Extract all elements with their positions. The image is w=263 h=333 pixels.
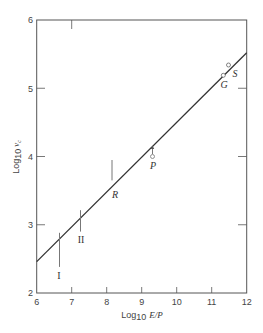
x-tick-9: 9	[139, 297, 144, 307]
y-tick-5: 5	[28, 84, 33, 94]
y-tick-4: 4	[28, 152, 33, 162]
point-G	[221, 73, 225, 77]
label-S: S	[233, 68, 238, 79]
point-P	[151, 155, 155, 159]
label-I: I	[57, 270, 60, 281]
point-S	[227, 63, 231, 67]
y-tick-6: 6	[28, 15, 33, 25]
x-tick-7: 7	[69, 297, 74, 307]
x-tick-6: 6	[34, 297, 39, 307]
label-G: G	[220, 79, 227, 90]
y-tick-labels: 2 3 4 5 6	[28, 15, 33, 298]
x-axis-label: Log10E/P	[121, 310, 163, 322]
fit-line	[37, 53, 247, 262]
y-tick-3: 3	[28, 220, 33, 230]
x-tick-12: 12	[242, 297, 252, 307]
x-tick-labels: 6 7 8 9 10 11 12	[34, 297, 252, 307]
y-axis-label: Log10vc	[11, 140, 23, 174]
x-tick-11: 11	[207, 297, 216, 307]
chart: 6 7 8 9 10 11 12 2 3 4 5 6 Log10E/P Log1…	[0, 0, 263, 333]
label-II: II	[78, 234, 85, 245]
y-tick-2: 2	[28, 288, 33, 298]
label-P: P	[149, 160, 156, 171]
x-tick-10: 10	[172, 297, 182, 307]
x-tick-8: 8	[104, 297, 109, 307]
label-R: R	[111, 189, 118, 200]
